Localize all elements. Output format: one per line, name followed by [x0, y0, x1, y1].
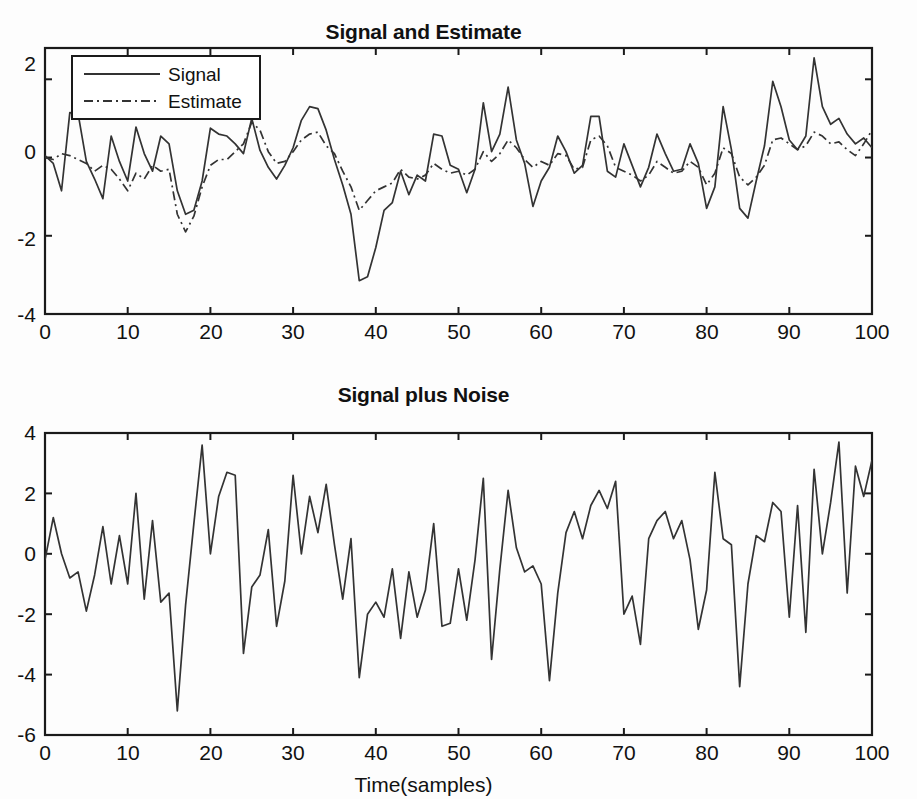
svg-text:Signal: Signal: [168, 64, 221, 85]
matlab-figure: Signal and Estimate 2 0 -2 -4 0 10 20 30…: [0, 0, 917, 799]
subplot-signal-plus-noise: Signal plus Noise 4 2 0 -2 -4 -6 0 10 20…: [0, 375, 917, 799]
subplot-signal-and-estimate: Signal and Estimate 2 0 -2 -4 0 10 20 30…: [0, 0, 917, 375]
plot2-canvas: [0, 375, 917, 799]
svg-text:Estimate: Estimate: [168, 91, 242, 112]
plot1-canvas: SignalEstimate: [0, 0, 917, 375]
